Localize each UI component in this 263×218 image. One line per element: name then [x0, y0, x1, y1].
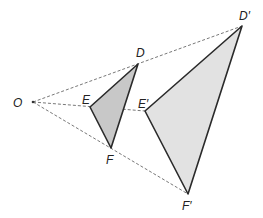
label-E-prime: E′	[138, 97, 149, 111]
label-F: F	[106, 153, 114, 167]
triangle-original-DEF	[90, 64, 138, 148]
label-D: D	[136, 46, 145, 60]
center-point-O	[32, 101, 35, 104]
label-E: E	[82, 93, 91, 107]
label-D-prime: D′	[239, 9, 251, 23]
label-O: O	[13, 96, 22, 110]
triangle-image-DEF-prime	[145, 26, 242, 194]
dilation-diagram: O D E F D′ E′ F′	[0, 0, 263, 218]
label-F-prime: F′	[182, 199, 192, 213]
